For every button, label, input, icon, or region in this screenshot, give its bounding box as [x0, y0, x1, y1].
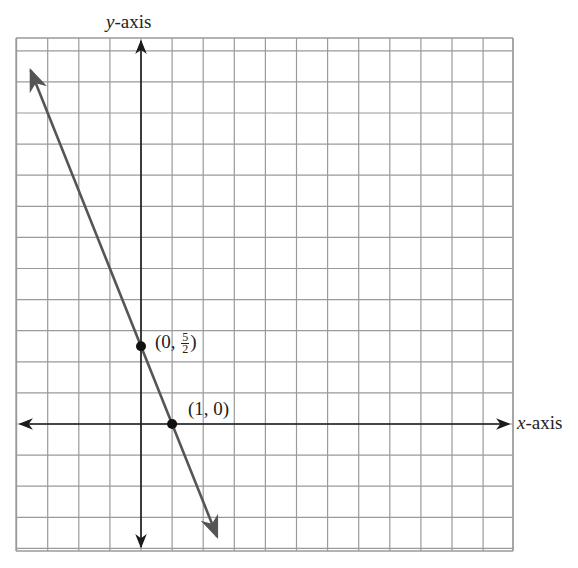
coordinate-plane	[0, 0, 578, 568]
x-axis-label: x-axis	[517, 413, 562, 432]
series-line	[31, 70, 218, 537]
grid-lines	[16, 38, 513, 551]
data-line	[31, 70, 218, 537]
data-point	[136, 341, 146, 351]
fraction-five-halves: 52	[181, 332, 189, 355]
point-label-y-intercept: (0, 52)	[155, 332, 197, 355]
axes	[20, 41, 509, 547]
y-axis-label: y-axis	[106, 12, 151, 31]
point-label-x-intercept: (1, 0)	[188, 399, 229, 418]
data-point	[167, 419, 177, 429]
